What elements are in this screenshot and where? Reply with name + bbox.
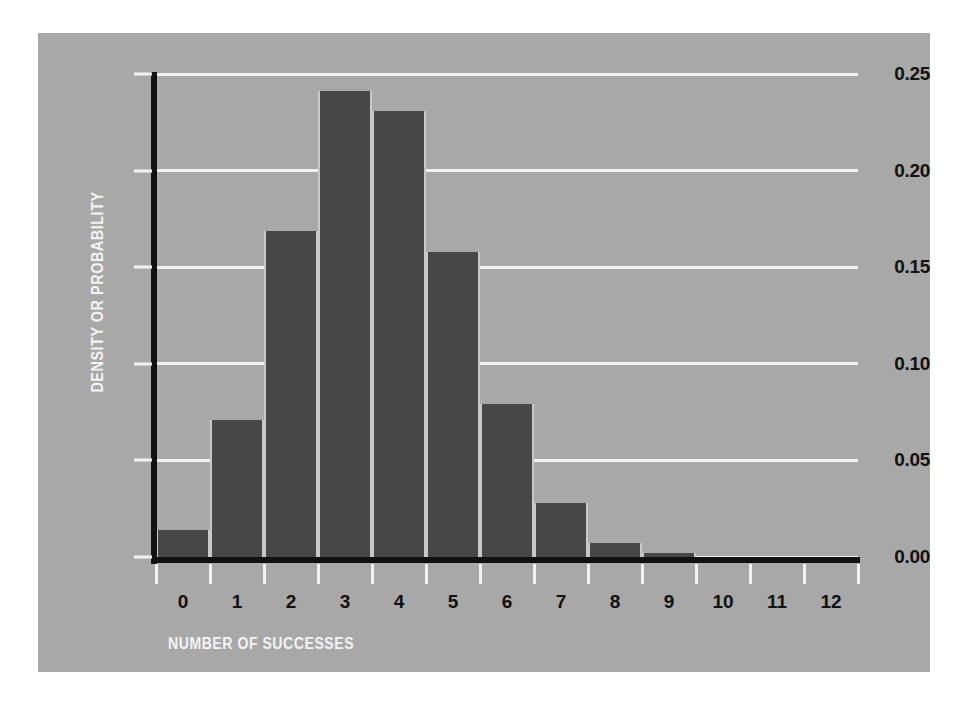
bar [318,91,372,557]
x-axis-line [151,557,860,563]
x-tick-label: 7 [541,591,581,613]
bar [588,543,642,557]
x-tick-label: 9 [649,591,689,613]
y-tick-mark [134,73,152,76]
x-tick-label: 6 [487,591,527,613]
gridline [156,266,858,269]
x-tick-label: 5 [433,591,473,613]
bar [426,252,480,557]
x-tick-mark [803,564,806,584]
y-tick-label: 0.25 [846,63,930,85]
y-tick-label: 0.05 [846,449,930,471]
y-tick-mark [134,169,152,172]
x-tick-label: 4 [379,591,419,613]
x-tick-mark [209,564,212,584]
x-tick-mark [641,564,644,584]
plot-area [156,74,858,557]
y-tick-mark [134,266,152,269]
x-axis-title: NUMBER OF SUCCESSES [168,635,354,653]
x-tick-mark [155,564,158,584]
x-tick-label: 12 [811,591,851,613]
bar [210,420,264,557]
x-tick-label: 3 [325,591,365,613]
gridline [156,362,858,365]
x-tick-label: 11 [757,591,797,613]
x-tick-label: 0 [163,591,203,613]
figure-canvas: DENSITY OR PROBABILITY NUMBER OF SUCCESS… [0,0,962,710]
bar [534,503,588,557]
x-tick-label: 1 [217,591,257,613]
x-tick-mark [425,564,428,584]
y-tick-mark [134,459,152,462]
x-tick-mark [857,564,860,584]
x-tick-mark [479,564,482,584]
bar [156,530,210,557]
bar [372,111,426,557]
x-tick-label: 10 [703,591,743,613]
y-tick-mark [134,556,152,559]
bar [264,231,318,558]
gridline [156,169,858,172]
x-tick-mark [695,564,698,584]
x-tick-mark [263,564,266,584]
bar [480,404,534,557]
x-tick-label: 2 [271,591,311,613]
y-tick-label: 0.20 [846,160,930,182]
x-tick-mark [371,564,374,584]
chart-panel: DENSITY OR PROBABILITY NUMBER OF SUCCESS… [38,33,930,672]
y-axis-title: DENSITY OR PROBABILITY [89,112,107,472]
x-tick-label: 8 [595,591,635,613]
x-tick-mark [317,564,320,584]
y-tick-label: 0.15 [846,256,930,278]
y-tick-mark [134,362,152,365]
y-tick-label: 0.10 [846,353,930,375]
x-tick-mark [533,564,536,584]
gridline [156,73,858,76]
y-axis-line [151,72,157,564]
x-tick-mark [749,564,752,584]
x-tick-mark [587,564,590,584]
